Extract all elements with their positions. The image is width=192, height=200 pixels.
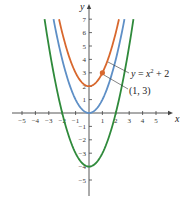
axes: −5−4−3−2−112345−5−4−3−2−11234567xy <box>12 1 180 196</box>
x-tick-label: 4 <box>141 117 145 125</box>
y-tick-label: 3 <box>83 69 87 77</box>
y-tick-label: −5 <box>79 177 87 185</box>
x-tick-label: 3 <box>127 117 131 125</box>
x-tick-label: −5 <box>18 117 26 125</box>
y-tick-label: 1 <box>83 96 87 104</box>
y-tick-label: 7 <box>83 16 87 24</box>
x-tick-label: −4 <box>32 117 40 125</box>
point-label: (1, 3) <box>129 85 151 97</box>
x-tick-label: 1 <box>101 117 105 125</box>
curve-label: y = x2 + 2 <box>130 68 169 79</box>
y-axis-label: y <box>79 1 85 12</box>
x-axis-label: x <box>174 113 180 124</box>
y-tick-label: 4 <box>83 56 87 64</box>
y-tick-label: 6 <box>83 29 87 37</box>
x-axis-arrow-icon <box>168 111 173 115</box>
x-tick-label: −3 <box>45 117 53 125</box>
y-tick-label: −2 <box>79 136 87 144</box>
parabola-chart: −5−4−3−2−112345−5−4−3−2−11234567xy y = x… <box>0 0 192 200</box>
y-tick-label: −1 <box>79 123 87 131</box>
y-tick-label: −3 <box>79 150 87 158</box>
x-tick-label: 5 <box>154 117 158 125</box>
y-axis-arrow-icon <box>87 4 91 9</box>
y-tick-label: 5 <box>83 43 87 51</box>
point-marker <box>100 70 105 75</box>
